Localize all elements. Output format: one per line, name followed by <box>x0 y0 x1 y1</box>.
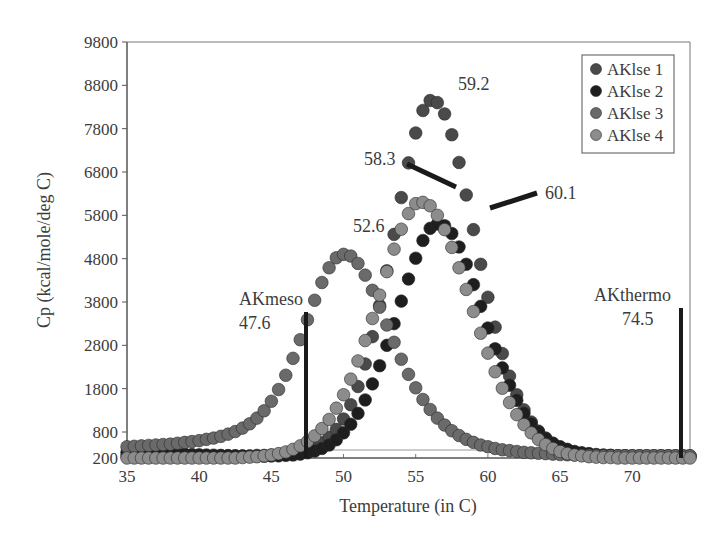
data-point <box>388 243 401 256</box>
data-point <box>381 319 394 332</box>
data-point <box>402 273 415 286</box>
data-point <box>438 223 451 236</box>
data-point <box>352 355 365 368</box>
x-tick-label: 35 <box>119 467 136 486</box>
data-point <box>503 396 516 409</box>
x-tick-label: 55 <box>407 467 424 486</box>
data-point <box>474 327 487 340</box>
data-point <box>272 383 285 396</box>
peak1-label: 59.2 <box>458 74 490 94</box>
legend-label: AKlse 3 <box>607 104 663 123</box>
y-tick-label: 9800 <box>84 33 118 52</box>
data-point <box>438 108 451 121</box>
data-point <box>344 418 357 431</box>
data-point <box>395 223 408 236</box>
x-tick-label: 45 <box>263 467 280 486</box>
data-point <box>344 373 357 386</box>
legend-label: AKlse 2 <box>607 82 663 101</box>
y-tick-label: 7800 <box>84 120 118 139</box>
akthermo-label: AKthermo <box>594 285 671 305</box>
akmeso-label: AKmeso <box>239 289 303 309</box>
data-point <box>431 209 444 222</box>
peak3-label: 52.6 <box>353 216 385 236</box>
x-tick-label: 70 <box>624 467 641 486</box>
data-point <box>460 189 473 202</box>
y-tick-label: 800 <box>93 423 119 442</box>
data-point <box>279 369 292 382</box>
legend-marker-icon <box>591 108 602 119</box>
data-point <box>409 127 422 140</box>
y-tick-label: 6800 <box>84 163 118 182</box>
peak4-label: 58.3 <box>364 149 396 169</box>
legend-marker-icon <box>591 130 602 141</box>
data-point <box>366 312 379 325</box>
y-tick-label: 4800 <box>84 250 118 269</box>
data-point <box>446 241 459 254</box>
y-tick-label: 5800 <box>84 206 118 225</box>
y-tick-label: 8800 <box>84 76 118 95</box>
data-point <box>287 352 300 365</box>
legend-label: AKlse 4 <box>607 126 664 145</box>
data-point <box>308 294 321 307</box>
data-point <box>431 96 444 109</box>
akthermo-value: 74.5 <box>622 309 654 329</box>
data-point <box>316 276 329 289</box>
peak2-label: 60.1 <box>545 183 577 203</box>
data-point <box>395 295 408 308</box>
y-axis-ticks: 2008001800280038004800580068007800880098… <box>84 33 127 468</box>
data-point <box>453 261 466 274</box>
data-point <box>460 283 473 296</box>
data-point <box>446 128 459 141</box>
y-tick-label: 1800 <box>84 380 118 399</box>
data-point <box>395 353 408 366</box>
data-point <box>359 269 372 282</box>
y-tick-label: 2800 <box>84 336 118 355</box>
x-axis-title: Temperature (in C) <box>339 496 477 517</box>
y-axis-title: Cp (kcal/mole/deg C) <box>34 172 55 328</box>
x-tick-label: 65 <box>552 467 569 486</box>
data-point <box>359 334 372 347</box>
data-point <box>359 394 372 407</box>
data-point <box>417 234 430 247</box>
x-tick-label: 40 <box>191 467 208 486</box>
akmeso-value: 47.6 <box>239 313 271 333</box>
data-point <box>453 156 466 169</box>
legend-marker-icon <box>591 64 602 75</box>
data-point <box>467 305 480 318</box>
data-point <box>395 191 408 204</box>
data-point <box>265 395 278 408</box>
data-point <box>684 452 697 465</box>
data-point <box>388 336 401 349</box>
series-4 <box>121 196 697 464</box>
peak4-pointer-line <box>407 164 456 187</box>
legend: AKlse 1AKlse 2AKlse 3AKlse 4 <box>582 55 674 153</box>
data-point <box>366 378 379 391</box>
data-point <box>323 413 336 426</box>
data-point <box>496 382 509 395</box>
peak2-pointer-line <box>490 193 537 208</box>
legend-label: AKlse 1 <box>607 60 663 79</box>
data-point <box>474 258 487 271</box>
series-2 <box>121 218 697 463</box>
y-tick-label: 3800 <box>84 293 118 312</box>
data-point <box>330 402 343 415</box>
legend-marker-icon <box>591 86 602 97</box>
data-point <box>409 382 422 395</box>
data-point <box>352 407 365 420</box>
data-point <box>373 359 386 372</box>
data-point <box>402 368 415 381</box>
data-point <box>337 388 350 401</box>
data-point <box>352 257 365 270</box>
x-tick-label: 50 <box>335 467 352 486</box>
data-point <box>467 223 480 236</box>
dsc-chart: 2008001800280038004800580068007800880098… <box>0 0 727 541</box>
data-point <box>381 265 394 278</box>
data-point <box>373 301 386 314</box>
data-point <box>489 365 502 378</box>
x-tick-label: 60 <box>479 467 496 486</box>
data-point <box>373 289 386 302</box>
y-tick-label: 200 <box>93 449 119 468</box>
data-point <box>409 252 422 265</box>
data-point <box>482 347 495 360</box>
